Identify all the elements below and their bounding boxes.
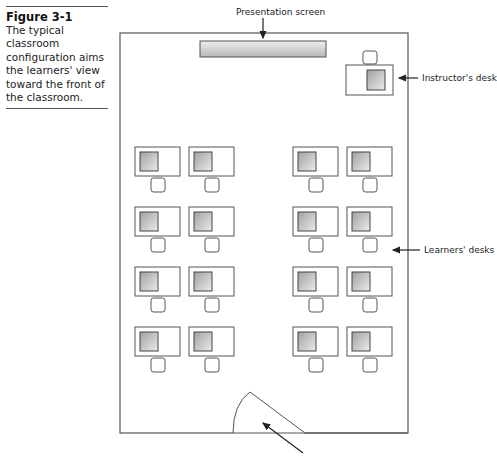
monitor-icon bbox=[352, 212, 370, 231]
chair-icon bbox=[205, 178, 219, 192]
chair-icon bbox=[205, 358, 219, 372]
monitor-icon bbox=[140, 212, 158, 231]
monitor-icon bbox=[140, 152, 158, 171]
chair-icon bbox=[205, 238, 219, 252]
learner-desk bbox=[293, 327, 338, 372]
chair-icon bbox=[309, 238, 323, 252]
monitor-icon bbox=[298, 212, 316, 231]
monitor-icon bbox=[298, 272, 316, 291]
door-panel bbox=[250, 392, 305, 433]
door bbox=[233, 392, 408, 434]
chair-icon bbox=[363, 238, 377, 252]
instructors-desk bbox=[346, 51, 393, 95]
learners-desks bbox=[135, 147, 392, 372]
chair-icon bbox=[151, 358, 165, 372]
learner-desk bbox=[135, 327, 180, 372]
monitor-icon bbox=[298, 332, 316, 351]
monitor-icon bbox=[140, 272, 158, 291]
instructor-monitor-icon bbox=[367, 70, 385, 90]
monitor-icon bbox=[194, 272, 212, 291]
monitor-icon bbox=[298, 152, 316, 171]
chair-icon bbox=[151, 238, 165, 252]
monitor-icon bbox=[194, 212, 212, 231]
learner-desk bbox=[189, 327, 234, 372]
monitor-icon bbox=[352, 152, 370, 171]
chair-icon bbox=[363, 298, 377, 312]
chair-icon bbox=[363, 358, 377, 372]
learners-desks-label: Learners' desks bbox=[424, 245, 494, 255]
learner-desk bbox=[347, 147, 392, 192]
instructors-desk-label: Instructor's desk bbox=[422, 73, 497, 83]
monitor-icon bbox=[194, 332, 212, 351]
learner-desk bbox=[293, 207, 338, 252]
chair-icon bbox=[363, 178, 377, 192]
instructor-chair-icon bbox=[363, 51, 377, 64]
monitor-icon bbox=[352, 272, 370, 291]
learner-desk bbox=[347, 327, 392, 372]
learner-desk bbox=[189, 267, 234, 312]
learner-desk bbox=[347, 267, 392, 312]
monitor-icon bbox=[194, 152, 212, 171]
monitor-icon bbox=[140, 332, 158, 351]
presentation-screen-label: Presentation screen bbox=[236, 7, 325, 17]
callout-arrows bbox=[263, 18, 420, 453]
learner-desk bbox=[135, 267, 180, 312]
learner-desk bbox=[347, 207, 392, 252]
chair-icon bbox=[151, 298, 165, 312]
monitor-icon bbox=[352, 332, 370, 351]
chair-icon bbox=[205, 298, 219, 312]
door-swing-arc bbox=[233, 392, 250, 433]
learner-desk bbox=[189, 207, 234, 252]
learner-desk bbox=[293, 267, 338, 312]
learner-desk bbox=[135, 207, 180, 252]
chair-icon bbox=[309, 178, 323, 192]
presentation-screen bbox=[200, 41, 326, 57]
chair-icon bbox=[309, 358, 323, 372]
learner-desk bbox=[135, 147, 180, 192]
chair-icon bbox=[151, 178, 165, 192]
learner-desk bbox=[293, 147, 338, 192]
chair-icon bbox=[309, 298, 323, 312]
learner-desk bbox=[189, 147, 234, 192]
